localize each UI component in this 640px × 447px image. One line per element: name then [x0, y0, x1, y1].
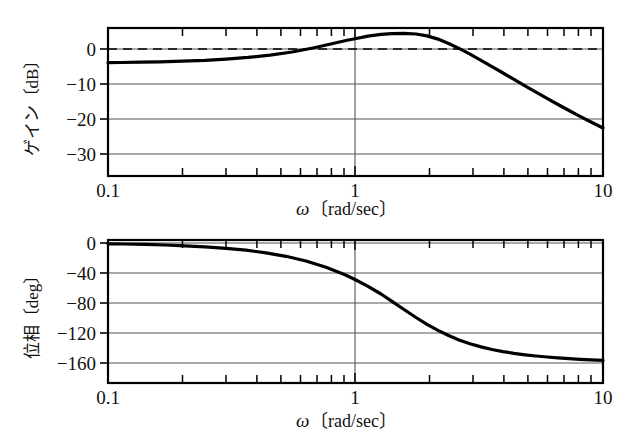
gain-yaxis-title: ゲイン〔dB〕	[23, 52, 42, 157]
phase-xtick-1: 1	[350, 387, 360, 408]
gain-xtick-1: 1	[350, 180, 360, 201]
gain-xaxis-omega-symbol: ω	[296, 198, 309, 219]
phase-xaxis-units: 〔rad/sec〕	[310, 411, 397, 431]
phase-xaxis-title: ω 〔rad/sec〕	[296, 410, 397, 431]
phase-yaxis-title: 位相〔deg〕	[23, 267, 42, 360]
gain-xaxis-units: 〔rad/sec〕	[310, 199, 397, 219]
phase-gridlines	[108, 240, 603, 383]
gain-gridlines	[108, 28, 603, 176]
phase-bottom-ticks	[183, 373, 592, 383]
phase-xtick-10: 10	[594, 387, 613, 408]
gain-xtick-10: 10	[594, 180, 613, 201]
phase-left-ticks	[100, 243, 108, 363]
gain-ytick-minus30: −30	[66, 144, 96, 165]
gain-ytick-0: 0	[87, 39, 97, 60]
gain-ytick-minus10: −10	[66, 74, 96, 95]
gain-plot-group: 0 −10 −20 −30 0.1 1 10 ω 〔rad/sec〕 ゲイン〔d…	[23, 28, 613, 219]
phase-ytick-minus160: −160	[57, 353, 96, 374]
phase-ytick-0: 0	[87, 233, 97, 254]
gain-bottom-ticks	[183, 166, 592, 176]
bode-diagram-figure: 0 −10 −20 −30 0.1 1 10 ω 〔rad/sec〕 ゲイン〔d…	[0, 0, 640, 447]
phase-ytick-minus120: −120	[57, 323, 96, 344]
phase-ytick-minus40: −40	[66, 263, 96, 284]
phase-xaxis-omega-symbol: ω	[296, 410, 309, 431]
gain-xaxis-title: ω 〔rad/sec〕	[296, 198, 397, 219]
phase-ytick-minus80: −80	[66, 293, 96, 314]
gain-xtick-0p1: 0.1	[96, 180, 120, 201]
phase-xtick-0p1: 0.1	[96, 387, 120, 408]
gain-ytick-minus20: −20	[66, 109, 96, 130]
phase-plot-group: 0 −40 −80 −120 −160 0.1 1 10 ω 〔rad/sec〕…	[23, 233, 613, 431]
gain-left-ticks	[100, 49, 108, 154]
